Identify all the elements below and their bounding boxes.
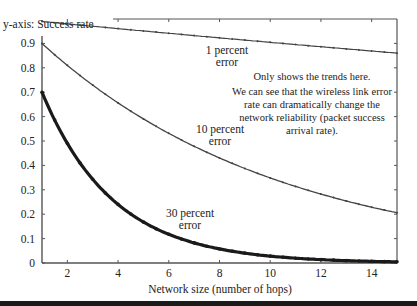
y-tick-label: 0.9 [21, 37, 36, 49]
note-trends: Only shows the trends here. [254, 71, 371, 82]
y-tick-label: 0.3 [21, 184, 36, 196]
series-label-1pct-2: error [216, 56, 239, 68]
x-tick-label: 4 [115, 267, 121, 279]
note-line-4: arrival rate). [286, 125, 338, 137]
y-tick-label: 0.4 [21, 159, 36, 171]
y-tick-label: 0.6 [21, 111, 36, 123]
note-line-3: network reliability (packet success [239, 112, 385, 124]
x-axis-label: Network size (number of hops) [148, 283, 292, 296]
note-line-1: We can see that the wireless link error [232, 86, 392, 97]
y-tick-label: 0.5 [21, 135, 36, 147]
success-rate-chart: 246810121400.10.20.30.40.50.60.70.80.9 y… [0, 0, 417, 306]
x-tick-label: 10 [264, 267, 276, 279]
axes: 246810121400.10.20.30.40.50.60.70.80.9 [21, 19, 397, 279]
series-label-10pct-2: error [209, 135, 232, 147]
y-tick-label: 0.1 [21, 233, 36, 245]
y-tick-label: 0.2 [21, 208, 36, 220]
note-line-2: rate can dramatically change the [244, 99, 380, 110]
x-tick-label: 8 [217, 267, 223, 279]
x-tick-label: 14 [366, 267, 378, 279]
y-tick-label: 0.7 [21, 86, 36, 98]
bottom-border [0, 301, 417, 306]
x-tick-label: 2 [64, 267, 70, 279]
y-axis-label: y-axis: Success rate [3, 18, 94, 31]
y-tick-label: 0.8 [21, 62, 36, 74]
x-tick-label: 6 [166, 267, 172, 279]
x-tick-label: 12 [315, 267, 327, 279]
y-tick-label: 0 [29, 257, 35, 269]
series-label-30pct-2: error [179, 219, 202, 231]
